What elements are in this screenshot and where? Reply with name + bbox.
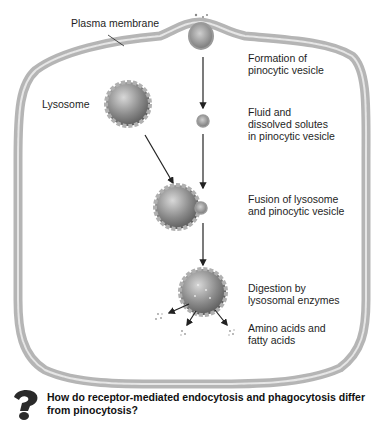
- label-products: Amino acids and fatty acids: [248, 322, 326, 346]
- label-digestion: Digestion by lysosomal enzymes: [248, 282, 340, 306]
- amino-acid-particles: [155, 313, 235, 336]
- lysosome: [106, 82, 150, 126]
- review-question: How do receptor-mediated endocytosis and…: [47, 391, 377, 417]
- label-fluid: Fluid and dissolved solutes in pinocytic…: [248, 106, 335, 142]
- pinocytosis-diagram: Plasma membrane Lysosome Formation of pi…: [0, 0, 381, 425]
- fused-vesicle: [155, 185, 207, 229]
- arrow-lysosome-to-fusion: [145, 135, 173, 183]
- label-formation: Formation of pinocytic vesicle: [248, 52, 324, 76]
- label-lysosome: Lysosome: [42, 98, 89, 110]
- label-fusion: Fusion of lysosome and pinocytic vesicle: [248, 193, 344, 217]
- pinocytic-vesicle: [197, 115, 209, 127]
- digesting-lysosome: [180, 269, 226, 315]
- label-plasma-membrane: Plasma membrane: [71, 17, 159, 29]
- question-mark-icon: [10, 387, 44, 421]
